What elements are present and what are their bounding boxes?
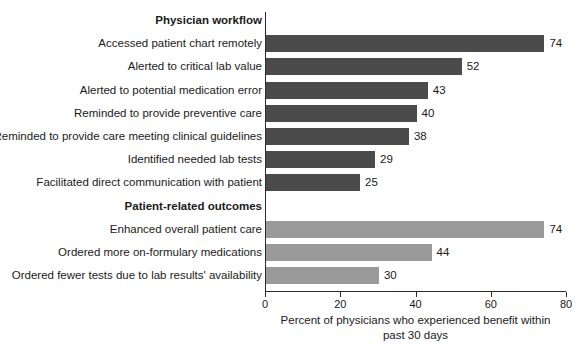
bar-row: Reminded to provide care meeting clinica…: [0, 128, 586, 145]
bar-row: Ordered fewer tests due to lab results' …: [0, 267, 586, 284]
bar-category-label: Reminded to provide preventive care: [74, 105, 262, 122]
bar-category-label: Enhanced overall patient care: [110, 221, 262, 238]
x-axis-title-line2: past 30 days: [265, 328, 566, 343]
bar-value-label: 74: [549, 35, 562, 52]
bar: [266, 244, 432, 261]
bar-value-label: 52: [467, 58, 480, 75]
bar-value-label: 29: [380, 151, 393, 168]
bar-category-label: Ordered fewer tests due to lab results' …: [12, 267, 262, 284]
bar: [266, 58, 462, 75]
bar-value-label: 43: [433, 82, 446, 99]
bar-value-label: 38: [414, 128, 427, 145]
bar: [266, 174, 360, 191]
bar-category-label: Identified needed lab tests: [128, 151, 262, 168]
bar: [266, 35, 544, 52]
bar-value-label: 74: [549, 221, 562, 238]
x-axis-title: Percent of physicians who experienced be…: [265, 313, 566, 343]
bar-value-label: 44: [437, 244, 450, 261]
bar-row: Enhanced overall patient care74: [0, 221, 586, 238]
x-axis-tick-label: 0: [245, 297, 285, 311]
bar-category-label: Alerted to critical lab value: [128, 58, 262, 75]
bar-row: Ordered more on-formulary medications44: [0, 244, 586, 261]
bar: [266, 221, 544, 238]
bar-category-label: Reminded to provide care meeting clinica…: [0, 128, 262, 145]
bar-value-label: 30: [384, 267, 397, 284]
x-axis-tick-label: 80: [546, 297, 586, 311]
bar: [266, 151, 375, 168]
bar-category-label: Facilitated direct communication with pa…: [36, 174, 262, 191]
bar: [266, 128, 409, 145]
bar: [266, 267, 379, 284]
group-header-label: Physician workflow: [155, 12, 262, 29]
group-header-row: Physician workflow: [0, 12, 586, 29]
bar-row: Alerted to critical lab value52: [0, 58, 586, 75]
bar-row: Identified needed lab tests29: [0, 151, 586, 168]
x-axis-tick-label: 60: [471, 297, 511, 311]
x-axis-tick-label: 20: [320, 297, 360, 311]
bar-row: Alerted to potential medication error43: [0, 82, 586, 99]
group-header-label: Patient-related outcomes: [125, 198, 262, 215]
bar: [266, 105, 417, 122]
bar-value-label: 40: [422, 105, 435, 122]
bar-category-label: Alerted to potential medication error: [80, 82, 262, 99]
bar-row: Facilitated direct communication with pa…: [0, 174, 586, 191]
bar-category-label: Ordered more on-formulary medications: [58, 244, 262, 261]
bar-category-label: Accessed patient chart remotely: [98, 35, 262, 52]
bar: [266, 82, 428, 99]
bar-row: Reminded to provide preventive care40: [0, 105, 586, 122]
bar-value-label: 25: [365, 174, 378, 191]
x-axis-tick-label: 40: [396, 297, 436, 311]
bar-row: Accessed patient chart remotely74: [0, 35, 586, 52]
group-header-row: Patient-related outcomes: [0, 198, 586, 215]
bar-chart: 020406080 Physician workflowAccessed pat…: [0, 0, 586, 346]
x-axis-title-line1: Percent of physicians who experienced be…: [265, 313, 566, 328]
